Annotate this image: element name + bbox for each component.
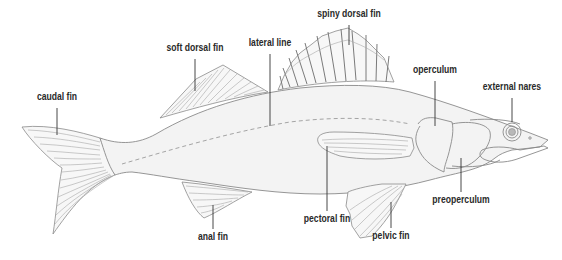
- label-operculum: operculum: [409, 64, 461, 76]
- label-caudal-fin: caudal fin: [31, 91, 83, 103]
- label-preoperculum: preoperculum: [427, 194, 496, 206]
- label-soft-dorsal-fin: soft dorsal fin: [161, 42, 230, 54]
- label-spiny-dorsal-fin: spiny dorsal fin: [310, 8, 387, 20]
- label-anal-fin: anal fin: [187, 231, 239, 243]
- label-pelvic-fin: pelvic fin: [361, 230, 421, 242]
- label-pectoral-fin: pectoral fin: [293, 213, 362, 225]
- label-external-nares: external nares: [478, 81, 547, 93]
- label-lateral-line: lateral line: [244, 37, 296, 49]
